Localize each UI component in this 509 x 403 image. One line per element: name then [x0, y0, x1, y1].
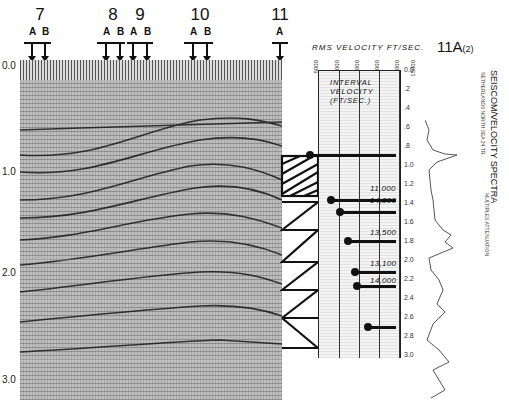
axis-label-1: 1.0: [2, 166, 16, 177]
time-tick: 1.0: [404, 161, 414, 168]
shotpoint-8-a: A: [103, 27, 110, 37]
time-tick: .6: [404, 123, 410, 130]
arrow-icon: [206, 43, 208, 57]
time-tick: 1.2: [404, 180, 414, 187]
shotpoint-8-b: B: [117, 27, 124, 37]
shotpoint-10-b: B: [204, 27, 211, 37]
shotpoint-7-a: A: [29, 27, 36, 37]
velocity-trace-curve: [425, 80, 475, 400]
velocity-spectra-panel: [318, 70, 401, 358]
shotpoint-9-bar: [127, 42, 153, 44]
axis-label-0: 0.0: [2, 60, 16, 71]
time-tick: .8: [404, 142, 410, 149]
figure-subtitle: NETHERLANDS NORTH SEA 24 TR.: [480, 72, 486, 156]
arrow-icon: [192, 43, 194, 57]
shotpoint-10-a: A: [190, 27, 197, 37]
time-tick: 1.4: [404, 199, 414, 206]
velocity-gridline: [379, 70, 380, 358]
time-tick: 0.0: [404, 66, 414, 73]
shotpoint-11-number: 11: [265, 6, 295, 23]
pick-label: 11,000: [370, 184, 396, 193]
arrow-icon: [44, 43, 46, 57]
time-tick: 1.8: [404, 237, 414, 244]
shotpoint-7-number: 7: [25, 6, 55, 23]
shotpoint-9-number: 9: [125, 6, 155, 23]
axis-label-3: 3.0: [2, 374, 16, 385]
time-tick: 2.4: [404, 294, 414, 301]
arrow-icon: [132, 43, 134, 57]
shotpoint-8-number: 8: [98, 6, 128, 23]
pick-line: [350, 240, 396, 243]
time-tick: .2: [404, 85, 410, 92]
pick-label: 14,300: [370, 196, 396, 205]
figure-id: 11A(2): [437, 38, 474, 55]
time-tick: 2.2: [404, 275, 414, 282]
arrow-icon: [146, 43, 148, 57]
shotpoint-11-a: A: [276, 27, 283, 37]
pick-line: [312, 154, 396, 157]
arrow-icon: [31, 43, 33, 57]
pick-line: [370, 326, 396, 329]
time-tick: 3.0: [404, 351, 414, 358]
pick-label: 13,100: [370, 259, 396, 268]
interval-velocity-label: INTERVAL VELOCITY (FT/SEC.): [330, 78, 374, 105]
shotpoint-7-b: B: [42, 27, 49, 37]
pick-label: 14,000: [370, 276, 396, 285]
seismic-section: [20, 60, 282, 400]
time-tick: .4: [404, 104, 410, 111]
arrow-icon: [119, 43, 121, 57]
arrow-icon: [279, 43, 281, 57]
time-tick: 2.8: [404, 332, 414, 339]
rms-velocity-title: RMS VELOCITY FT/SEC.: [312, 43, 424, 52]
velocity-gridline: [359, 70, 360, 358]
time-tick: 1.6: [404, 218, 414, 225]
time-tick: 2.0: [404, 256, 414, 263]
shotpoint-9-a: A: [130, 27, 137, 37]
figure-title: SEISCOM/VELOCITY SPECTRA: [489, 70, 499, 203]
shotpoint-10-bar: [184, 42, 213, 44]
arrow-icon: [105, 43, 107, 57]
shotpoint-7-bar: [24, 42, 51, 44]
pick-label: 13,500: [370, 228, 396, 237]
pick-line: [342, 211, 396, 214]
axis-label-2: 2.0: [2, 267, 16, 278]
seismic-reflectors: [20, 60, 282, 400]
pick-line: [357, 271, 396, 274]
process-note: MULTIPLES ATTENUATION: [484, 193, 490, 256]
interval-velocity-staircase: [280, 150, 322, 360]
shotpoint-10-number: 10: [185, 6, 215, 23]
pick-line: [359, 285, 396, 288]
shotpoint-9-b: B: [144, 27, 151, 37]
time-tick: 2.6: [404, 313, 414, 320]
right-time-axis: [400, 70, 401, 358]
